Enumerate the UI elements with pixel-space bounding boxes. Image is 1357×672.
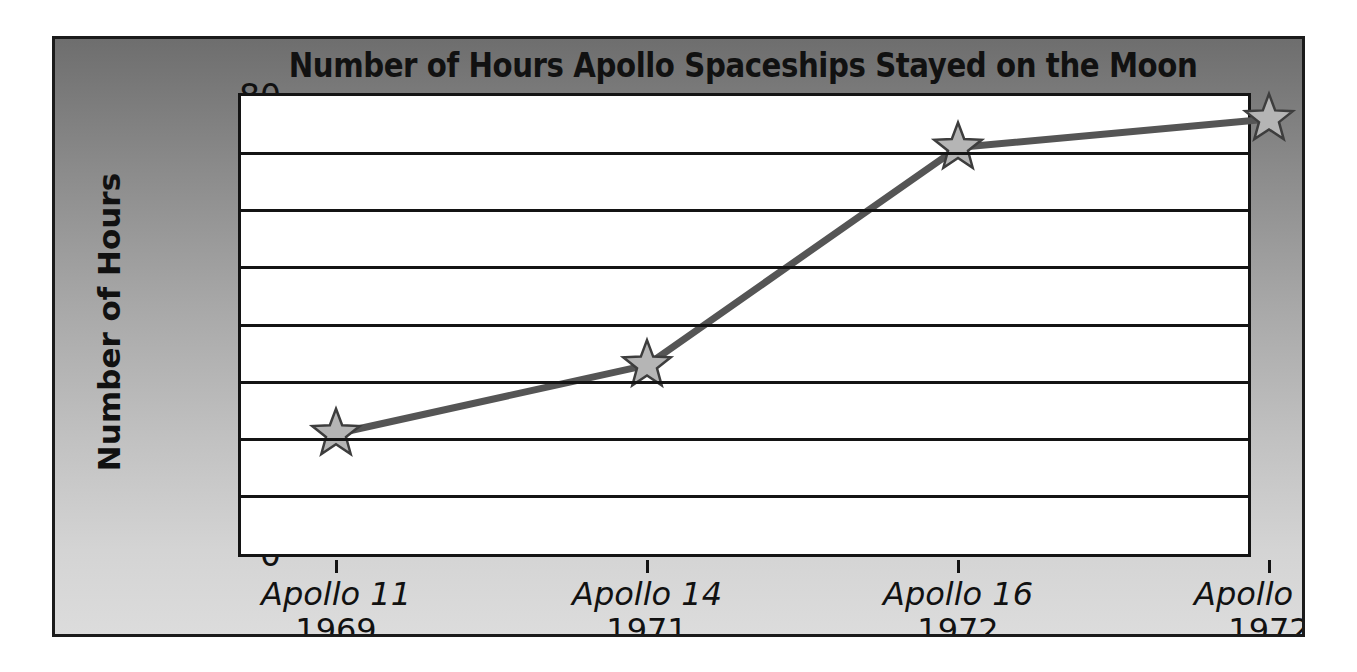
gridline [241,495,1248,498]
y-axis-title: Number of Hours [91,172,127,472]
x-label-mission: Apollo 16 [798,577,1118,613]
gridline [241,266,1248,269]
gridline [241,381,1248,384]
x-label-mission: Apollo 17 [1109,577,1305,613]
x-axis-labels: Apollo 111969Apollo 141971Apollo 161972A… [55,577,1302,637]
x-label-year: 1969 [176,613,496,637]
chart-screenshot: Number of Hours Apollo Spaceships Stayed… [0,0,1357,672]
x-label-year: 1972 [1109,613,1305,637]
x-axis-label: Apollo 171972 [1109,577,1305,637]
gridline [241,438,1248,441]
gridline [241,152,1248,155]
chart-title: Number of Hours Apollo Spaceships Stayed… [142,45,1214,85]
x-axis-label: Apollo 161972 [798,577,1118,637]
x-label-year: 1971 [487,613,807,637]
chart-panel: Number of Hours Apollo Spaceships Stayed… [52,36,1305,637]
x-axis-tick [646,560,649,573]
x-axis-tick [1268,560,1271,573]
x-axis-label: Apollo 141971 [487,577,807,637]
x-label-mission: Apollo 11 [176,577,496,613]
gridline [241,324,1248,327]
x-label-mission: Apollo 14 [487,577,807,613]
data-point-marker [312,409,360,454]
gridline [241,209,1248,212]
x-axis-label: Apollo 111969 [176,577,496,637]
x-axis-tick [335,560,338,573]
data-line [336,119,1269,434]
data-point-marker [623,340,671,385]
plot-area [238,93,1251,557]
x-label-year: 1972 [798,613,1118,637]
x-axis-tick [957,560,960,573]
data-markers [312,94,1293,454]
data-point-marker [1245,94,1293,139]
